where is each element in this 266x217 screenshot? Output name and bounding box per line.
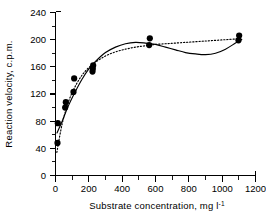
y-tick-label-0: 0 <box>41 170 46 181</box>
x-axis-ticks <box>56 176 256 182</box>
y-tick-labels: 0 40 80 120 160 200 240 <box>30 7 46 181</box>
chart-svg: 0 40 80 120 160 200 240 0 200 400 600 80… <box>0 0 266 217</box>
data-points <box>54 32 242 146</box>
x-tick-label-800: 800 <box>181 183 197 194</box>
dotted-fit-curve <box>57 38 242 152</box>
data-point <box>63 99 69 105</box>
x-tick-label-400: 400 <box>114 183 130 194</box>
data-point <box>147 35 153 41</box>
y-tick-label-160: 160 <box>30 61 46 72</box>
x-tick-label-1000: 1000 <box>212 183 233 194</box>
data-point <box>146 42 152 48</box>
x-axis-title-superscript: -1 <box>219 200 225 207</box>
y-tick-label-80: 80 <box>35 116 46 127</box>
data-point <box>236 32 242 38</box>
y-tick-label-40: 40 <box>35 143 46 154</box>
x-axis-title: Substrate concentration, mg l-1 <box>89 200 225 212</box>
axis-frame <box>56 12 256 176</box>
y-tick-label-120: 120 <box>30 88 46 99</box>
y-tick-label-240: 240 <box>30 7 46 18</box>
chart-figure: 0 40 80 120 160 200 240 0 200 400 600 80… <box>0 0 266 217</box>
data-point <box>62 104 68 110</box>
fit-curves <box>57 38 242 152</box>
x-tick-label-1200: 1200 <box>245 183 266 194</box>
x-tick-label-200: 200 <box>81 183 97 194</box>
axis-spines <box>56 12 256 176</box>
x-axis-title-text: Substrate concentration, mg l <box>89 200 218 211</box>
y-tick-label-200: 200 <box>30 34 46 45</box>
y-axis-ticks <box>50 13 56 176</box>
y-axis-title: Reaction velocity, c.p.m. <box>3 40 14 147</box>
data-point <box>90 62 96 68</box>
data-point <box>54 140 60 146</box>
data-point <box>55 120 61 126</box>
x-tick-label-600: 600 <box>148 183 164 194</box>
x-tick-label-0: 0 <box>53 183 58 194</box>
data-point <box>70 89 76 95</box>
x-tick-labels: 0 200 400 600 800 1000 1200 <box>53 183 266 194</box>
solid-fit-curve <box>57 39 242 133</box>
data-point <box>71 75 77 81</box>
